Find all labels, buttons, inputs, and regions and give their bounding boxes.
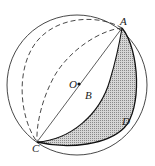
label-D: D <box>122 116 130 127</box>
label-C: C <box>32 143 39 154</box>
sphere-diagram <box>0 0 155 166</box>
shaded-lune <box>37 28 137 146</box>
label-A: A <box>120 16 127 27</box>
label-B: B <box>85 90 92 101</box>
center-point-O <box>77 82 80 85</box>
label-O: O <box>69 79 77 90</box>
